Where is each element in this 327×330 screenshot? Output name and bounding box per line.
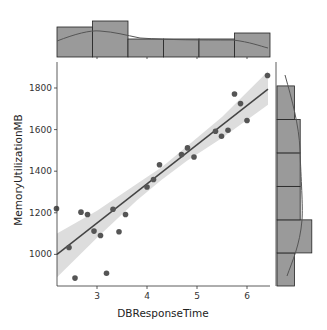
data-point bbox=[72, 275, 78, 281]
data-point bbox=[219, 133, 225, 139]
marginal-x-histogram bbox=[57, 21, 270, 59]
confidence-band bbox=[57, 71, 268, 277]
y-tick-label: 1200 bbox=[29, 208, 52, 218]
hist-bar bbox=[277, 153, 300, 186]
data-point bbox=[91, 228, 97, 234]
data-point bbox=[191, 154, 197, 160]
hist-bar bbox=[128, 39, 164, 57]
hist-bar bbox=[277, 253, 294, 286]
hist-bar bbox=[277, 86, 294, 119]
hist-bar bbox=[235, 33, 271, 57]
data-point bbox=[78, 209, 84, 215]
data-point bbox=[265, 73, 271, 79]
hist-bar bbox=[277, 186, 300, 219]
data-point bbox=[244, 118, 250, 124]
joint-plot: 345610001200140016001800 DBResponseTime … bbox=[0, 0, 327, 330]
data-point bbox=[98, 233, 104, 239]
hist-bar bbox=[164, 39, 200, 57]
y-tick-label: 1600 bbox=[29, 125, 52, 135]
data-point bbox=[110, 206, 116, 212]
y-tick-label: 1800 bbox=[29, 83, 52, 93]
x-tick-label: 6 bbox=[244, 291, 250, 301]
y-tick-label: 1400 bbox=[29, 166, 52, 176]
data-point bbox=[179, 152, 185, 158]
data-point bbox=[116, 229, 122, 235]
data-point bbox=[123, 212, 129, 218]
data-point bbox=[157, 162, 163, 168]
data-point bbox=[151, 177, 157, 183]
data-point bbox=[232, 91, 238, 97]
ci-band bbox=[57, 71, 268, 277]
fit-line bbox=[57, 89, 268, 254]
x-tick-label: 4 bbox=[144, 291, 150, 301]
x-tick-label: 5 bbox=[194, 291, 200, 301]
data-point bbox=[144, 184, 150, 190]
marginal-y-histogram bbox=[276, 62, 312, 286]
data-point bbox=[54, 206, 60, 212]
data-point bbox=[66, 245, 72, 251]
data-point bbox=[225, 127, 231, 133]
y-tick-label: 1000 bbox=[29, 249, 52, 259]
x-axis-label: DBResponseTime bbox=[117, 307, 208, 319]
hist-bar bbox=[199, 39, 235, 57]
x-tick-label: 3 bbox=[94, 291, 100, 301]
y-axis-label: MemoryUtilizationMB bbox=[12, 114, 24, 226]
data-point bbox=[213, 128, 219, 134]
data-point bbox=[238, 101, 244, 107]
data-point bbox=[85, 212, 91, 218]
hist-bar bbox=[277, 220, 312, 253]
hist-bar bbox=[93, 21, 129, 57]
data-point bbox=[104, 271, 110, 277]
regression-line bbox=[57, 89, 268, 254]
data-point bbox=[185, 145, 191, 151]
